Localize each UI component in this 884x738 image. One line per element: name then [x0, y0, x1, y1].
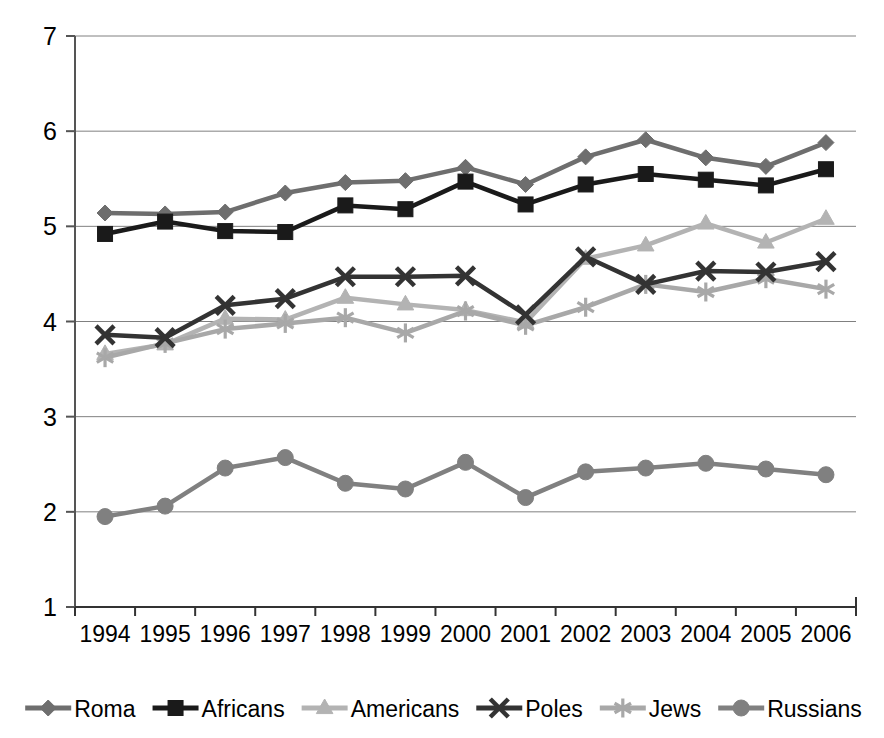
series-americans [97, 210, 834, 360]
legend-label: Jews [649, 696, 701, 722]
data-point-marker [98, 226, 113, 241]
data-point-marker [168, 701, 183, 716]
x-tick-label: 2002 [560, 621, 611, 647]
x-tick-label: 2004 [680, 621, 731, 647]
x-tick-label: 1994 [79, 621, 130, 647]
data-point-marker [157, 498, 173, 514]
legend-label: Poles [525, 696, 583, 722]
legend-item-roma[interactable]: Roma [25, 696, 136, 722]
y-tick-label: 7 [43, 22, 57, 50]
data-point-marker [638, 460, 654, 476]
legend-label: Russians [767, 696, 862, 722]
data-point-marker [458, 159, 474, 175]
data-point-marker [638, 166, 653, 181]
data-point-marker [278, 225, 293, 240]
y-tick-label: 1 [43, 593, 57, 621]
data-point-marker [578, 149, 594, 165]
legend-item-russians[interactable]: Russians [718, 696, 862, 722]
data-point-marker [158, 214, 173, 229]
data-point-marker [458, 174, 473, 189]
y-tick-label: 3 [43, 403, 57, 431]
data-point-marker [217, 460, 233, 476]
data-point-marker [277, 185, 293, 201]
x-tick-label: 1996 [200, 621, 251, 647]
data-point-marker [397, 173, 413, 189]
x-tick-label: 1997 [260, 621, 311, 647]
x-tick-label: 1995 [140, 621, 191, 647]
legend-label: Africans [202, 696, 285, 722]
data-point-marker [818, 162, 833, 177]
data-point-marker [337, 175, 353, 191]
data-point-marker [97, 509, 113, 525]
data-point-marker [578, 177, 593, 192]
data-point-marker [518, 176, 534, 192]
data-point-marker [733, 700, 749, 716]
legend-item-africans[interactable]: Africans [153, 696, 285, 722]
data-point-marker [458, 454, 474, 470]
data-point-marker [337, 475, 353, 491]
data-point-marker [758, 461, 774, 477]
data-point-marker [698, 172, 713, 187]
data-point-marker [218, 224, 233, 239]
x-tick-label: 2006 [800, 621, 851, 647]
x-tick-label: 2001 [500, 621, 551, 647]
legend-item-americans[interactable]: Americans [302, 696, 460, 722]
x-tick-label: 2000 [440, 621, 491, 647]
legend-item-jews[interactable]: Jews [600, 696, 701, 722]
data-point-marker [818, 135, 834, 151]
data-point-marker [397, 481, 413, 497]
data-point-marker [698, 455, 714, 471]
x-tick-label: 2005 [740, 621, 791, 647]
data-point-marker [758, 178, 773, 193]
data-point-marker [398, 202, 413, 217]
data-point-marker [698, 150, 714, 166]
legend: RomaAfricansAmericansPolesJewsRussians [25, 696, 862, 722]
chart-canvas: 1234567199419951996199719981999200020012… [0, 0, 884, 738]
data-point-marker [277, 450, 293, 466]
data-point-marker [818, 210, 835, 225]
data-point-marker [758, 158, 774, 174]
x-tick-label: 2003 [620, 621, 671, 647]
y-tick-label: 2 [43, 498, 57, 526]
x-tick-label: 1998 [320, 621, 371, 647]
legend-item-poles[interactable]: Poles [476, 696, 583, 722]
y-tick-label: 5 [43, 212, 57, 240]
data-point-marker [40, 700, 56, 716]
data-point-marker [518, 490, 534, 506]
series-russians [97, 450, 834, 525]
x-tick-label: 1999 [380, 621, 431, 647]
y-tick-label: 4 [43, 308, 57, 336]
data-point-marker [338, 198, 353, 213]
data-point-marker [638, 132, 654, 148]
data-point-marker [217, 204, 233, 220]
data-point-marker [698, 214, 715, 229]
data-point-marker [518, 197, 533, 212]
data-point-marker [337, 289, 354, 304]
y-tick-label: 6 [43, 117, 57, 145]
data-point-marker [578, 464, 594, 480]
legend-label: Americans [351, 696, 460, 722]
series-jews [97, 269, 834, 367]
line-chart: 1234567199419951996199719981999200020012… [0, 0, 884, 738]
data-point-marker [818, 467, 834, 483]
legend-label: Roma [74, 696, 136, 722]
data-point-marker [97, 205, 113, 221]
